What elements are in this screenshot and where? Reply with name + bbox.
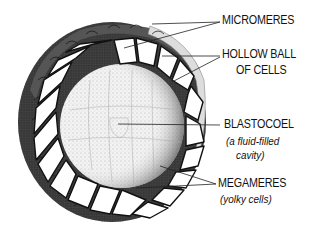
label-megameres: MEGAMERES <box>218 177 286 190</box>
label-megameres-note: (yolky cells) <box>220 194 272 205</box>
label-micromeres: MICROMERES <box>222 14 294 27</box>
blastocoel-cavity <box>60 64 184 188</box>
label-of-cells: OF CELLS <box>236 64 287 77</box>
label-blastocoel-note-line1: (a fluid-filled <box>226 136 279 147</box>
label-hollow-ball: HOLLOW BALL <box>222 48 296 61</box>
blastula-diagram: MICROMERES HOLLOW BALL OF CELLS BLASTOCO… <box>0 0 318 227</box>
label-blastocoel: BLASTOCOEL <box>224 118 294 131</box>
label-blastocoel-note-line2: cavity) <box>236 150 265 161</box>
